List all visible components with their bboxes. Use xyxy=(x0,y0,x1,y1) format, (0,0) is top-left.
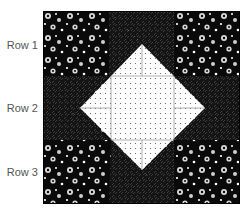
row-3-label: Row 3 xyxy=(7,166,38,178)
row-2-label: Row 2 xyxy=(7,102,38,114)
row-1-label: Row 1 xyxy=(7,39,38,51)
quilt-block-illustration xyxy=(43,11,240,204)
quilt-block xyxy=(43,11,240,204)
